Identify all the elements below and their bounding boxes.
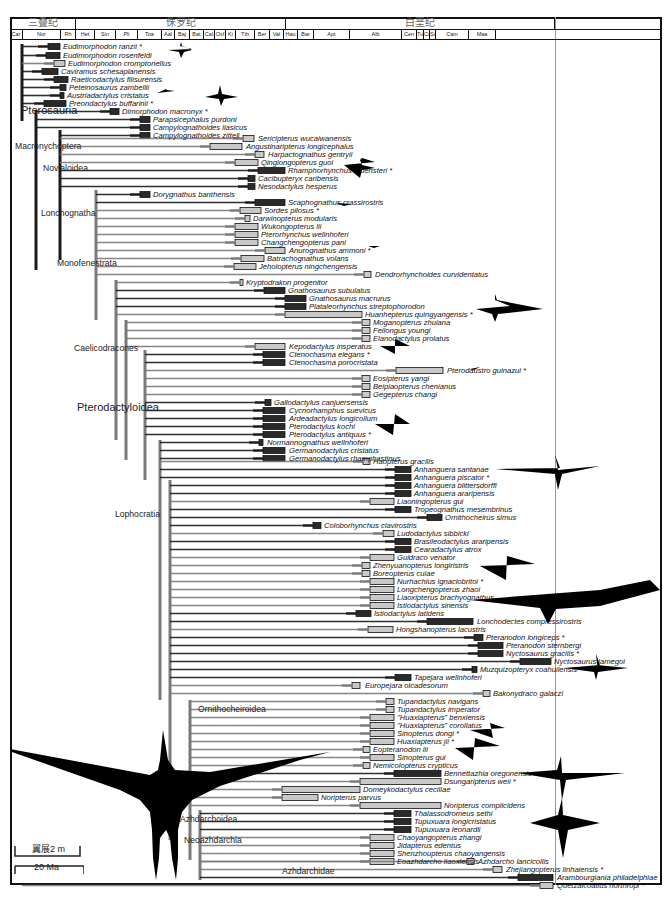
stratigraphic-range-bar [258,168,285,174]
stratigraphic-range-bar [370,499,394,505]
stratigraphic-range-bar [364,272,371,278]
taxon-label: Noripterus parvus [321,793,381,802]
stratigraphic-range-bar [362,336,370,342]
stratigraphic-range-bar [395,675,411,681]
stratigraphic-range-bar [248,176,255,182]
stratigraphic-range-bar [282,795,318,801]
stratigraphic-range-bar [370,603,394,609]
stratigraphic-range-bar [395,491,411,497]
stratigraphic-range-bar [245,216,250,222]
stratigraphic-range-bar [241,256,264,262]
stratigraphic-range-bar [235,232,258,238]
stratigraphic-range-bar [140,192,150,198]
stratigraphic-range-bar [60,93,64,99]
stratigraphic-range-bar [60,85,66,91]
taxon-label: Hongshanopterus lacustris [396,625,486,634]
stratigraphic-range-bar [285,304,306,310]
stratigraphic-range-bar [383,531,394,537]
clade-label: Lophocratia [115,509,160,519]
stratigraphic-range-bar [263,448,285,454]
stratigraphic-range-bar [48,44,60,50]
stratigraphic-range-bar [140,133,150,139]
stratigraphic-range-bar [493,867,502,873]
stratigraphic-range-bar [360,779,441,785]
stratigraphic-range-bar [370,715,394,721]
stratigraphic-range-bar [234,264,256,270]
stratigraphic-range-bar [370,555,394,561]
stratigraphic-range-bar [263,352,285,358]
stratigraphic-range-bar [370,579,394,585]
stratigraphic-range-bar [210,144,242,150]
stratigraphic-range-bar [360,803,441,809]
stratigraphic-range-bar [362,392,370,398]
taxon-label: Eudimorphodon ranzii * [63,42,142,51]
stratigraphic-range-bar [540,883,553,889]
stratigraphic-range-bar [368,627,393,633]
stratigraphic-range-bar [483,691,490,697]
clade-label: Novialoidea [43,163,88,173]
stratigraphic-range-bar [370,595,394,601]
stratigraphic-range-bar [370,843,394,849]
stratigraphic-range-bar [370,587,394,593]
stratigraphic-range-bar [478,651,503,657]
stratigraphic-range-bar [427,515,442,521]
stratigraphic-range-bar [259,440,263,446]
taxon-label: Nesodactylus hesperus [258,182,337,191]
stratigraphic-range-bar [386,707,394,713]
clade-label: Neoazhdarchia [184,835,242,845]
stratigraphic-range-bar [370,731,394,737]
stratigraphic-range-bar [362,563,370,569]
stratigraphic-range-bar [263,360,285,366]
taxon-label: Bakonydraco galaczi [493,689,563,698]
stratigraphic-range-bar [140,117,150,123]
taxon-label: Istiodactylus latidens [374,609,444,618]
stratigraphic-range-bar [243,136,254,142]
taxon-label: Ornithocheirus simus [445,513,516,522]
stratigraphic-range-bar [395,483,411,489]
stratigraphic-range-bar [363,747,370,753]
stratigraphic-range-bar [370,835,394,841]
taxon-label: Pterodaustro guinazui * [447,366,526,375]
taxon-label: Dsungaripterus weii * [444,777,516,786]
taxon-label: Europejara olcadesorum [365,681,448,690]
stratigraphic-range-bar [265,400,271,406]
taxon-label: Muzquizopteryx coahuilensis [480,665,577,674]
taxon-label: Jeholopterus ningchengensis [259,262,357,271]
stratigraphic-range-bar [363,763,370,769]
clade-label: Caelicodracones [74,343,138,353]
taxon-label: Elanodactylus prolatus [373,334,449,343]
taxon-label: Gegepterus changi [373,390,437,399]
stratigraphic-range-bar [265,248,285,254]
stratigraphic-range-bar [263,432,285,438]
stratigraphic-range-bar [370,851,394,857]
stratigraphic-range-bar [235,160,258,166]
time-scale-label: 20 Ma [34,862,59,872]
wingspan-scale-label: 翼展2 m [32,842,65,855]
stratigraphic-range-bar [386,699,394,705]
stratigraphic-range-bar [235,240,258,246]
stratigraphic-range-bar [313,523,321,529]
stratigraphic-range-bar [263,424,285,430]
stratigraphic-range-bar [478,643,503,649]
clade-label: Pterodactyloidea [77,401,159,413]
clade-label: Monofenestrata [57,258,117,268]
stratigraphic-range-bar [235,224,258,230]
stratigraphic-range-bar [362,571,370,577]
taxon-label: Dorygnathus banthensis [153,190,235,199]
clade-label: Azhdarchidae [282,866,335,876]
stratigraphic-range-bar [370,723,394,729]
stratigraphic-range-bar [264,288,285,294]
stratigraphic-range-bar [285,312,362,318]
taxon-label: Ctenochasma porocristata [289,358,378,367]
stratigraphic-range-bar [362,320,370,326]
stratigraphic-range-bar [248,184,255,190]
stratigraphic-range-bar [54,77,68,83]
stratigraphic-range-bar [140,125,150,131]
stratigraphic-range-bar [370,755,394,761]
stratigraphic-range-bar [395,507,411,513]
clade-label: Ornithocheiroidea [198,704,266,714]
stratigraphic-range-bar [427,619,473,625]
stratigraphic-range-bar [472,667,477,673]
stratigraphic-range-bar [110,109,119,115]
stratigraphic-range-bar [396,368,443,374]
